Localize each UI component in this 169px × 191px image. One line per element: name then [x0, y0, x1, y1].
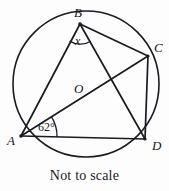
- geometry-figure: A B C D O x 62° Not to scale: [0, 0, 169, 191]
- vertex-dot-D: [143, 137, 146, 140]
- segment-chord-BC: [80, 24, 148, 56]
- circle-geometry-diagram: [0, 0, 169, 191]
- vertex-dot-A: [19, 134, 23, 138]
- angle-label-62-degrees: 62°: [38, 121, 55, 133]
- segment-chord-CD: [145, 56, 148, 139]
- vertex-label-D: D: [152, 139, 161, 152]
- vertex-label-B: B: [74, 6, 82, 19]
- vertex-label-A: A: [7, 134, 15, 147]
- vertex-dot-C: [146, 54, 149, 57]
- vertex-label-C: C: [154, 41, 163, 54]
- segment-chord-AD: [21, 136, 145, 139]
- vertex-dot-B: [78, 22, 82, 26]
- angle-label-x: x: [75, 35, 80, 47]
- center-label-O: O: [74, 82, 83, 95]
- figure-caption: Not to scale: [0, 168, 169, 184]
